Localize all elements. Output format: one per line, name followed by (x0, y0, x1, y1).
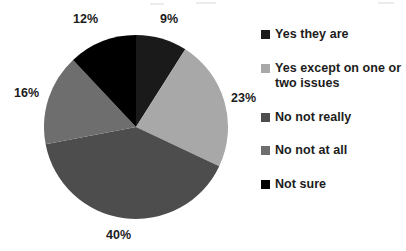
legend-item-not-sure[interactable]: Not sure (261, 177, 403, 192)
pie-slices (44, 35, 228, 219)
slice-label-no-not-at-all: 16% (14, 86, 39, 100)
slice-label-not-sure: 12% (73, 12, 98, 26)
legend-item-yes-except[interactable]: Yes except on one or two issues (261, 61, 403, 91)
legend-swatch-icon (261, 180, 270, 189)
legend-item-label: Yes they are (275, 27, 349, 42)
pie-chart-figure: 12% 9% 23% 16% 40% Yes they are Yes exce… (0, 0, 406, 251)
legend-item-no-not-at-all[interactable]: No not at all (261, 143, 403, 158)
legend-swatch-icon (261, 113, 270, 122)
legend-item-label: No not at all (275, 143, 347, 158)
slice-label-yes-they-are: 9% (160, 12, 178, 26)
legend-swatch-icon (261, 146, 270, 155)
legend-item-label: Yes except on one or two issues (275, 61, 403, 91)
legend-swatch-icon (261, 64, 270, 73)
legend-item-label: Not sure (275, 177, 326, 192)
legend-item-no-not-really[interactable]: No not really (261, 110, 403, 125)
legend-swatch-icon (261, 30, 270, 39)
scan-artifact (150, 3, 164, 5)
legend-item-label: No not really (275, 110, 351, 125)
pie-svg (44, 35, 228, 219)
scan-artifact (196, 2, 216, 4)
legend-item-yes-they-are[interactable]: Yes they are (261, 27, 403, 42)
chart-legend: Yes they are Yes except on one or two is… (261, 27, 403, 211)
pie-graphic (44, 35, 228, 219)
scan-artifact (378, 2, 394, 4)
slice-label-no-not-really: 40% (106, 228, 131, 242)
slice-label-yes-except: 23% (231, 91, 256, 105)
